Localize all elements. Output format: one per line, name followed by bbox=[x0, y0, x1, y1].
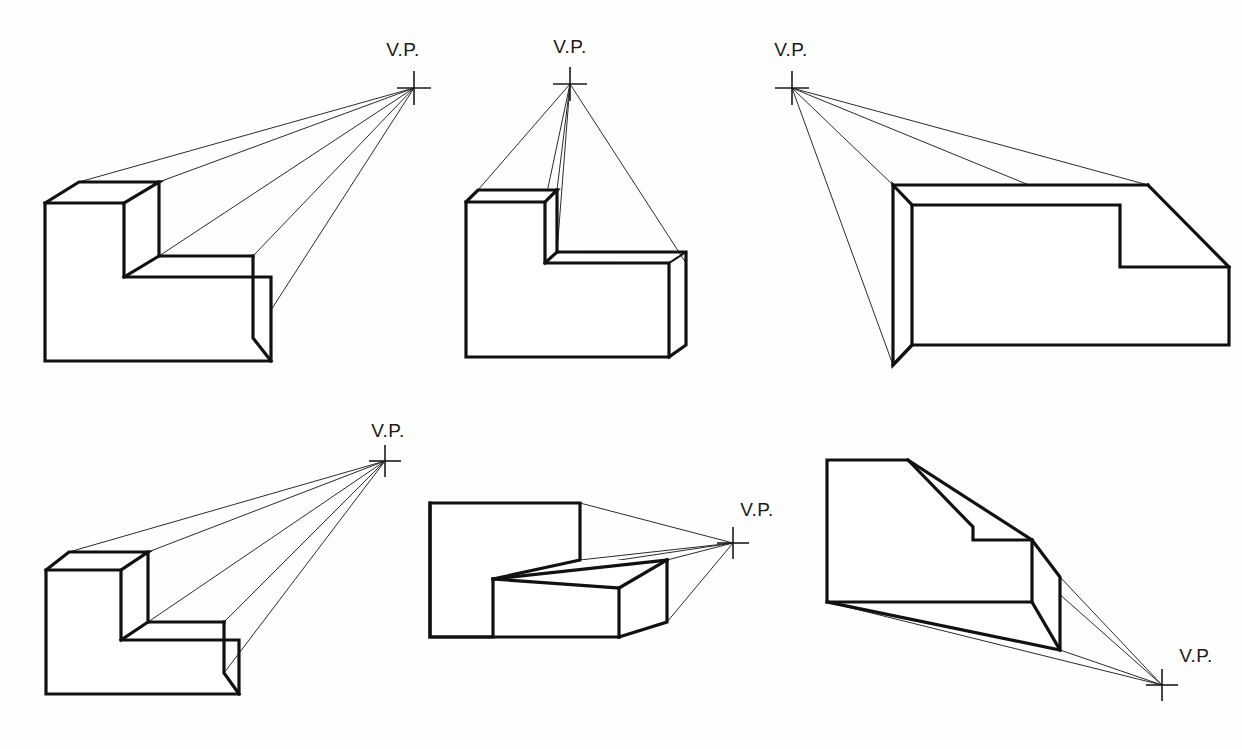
vp-label: V.P. bbox=[774, 39, 808, 60]
vp-label: V.P. bbox=[371, 420, 405, 441]
perspective-worksheet: V.P. V.P. bbox=[0, 0, 1242, 749]
drawing-canvas: V.P. V.P. bbox=[0, 0, 1242, 749]
vp-label: V.P. bbox=[740, 499, 774, 520]
vp-label: V.P. bbox=[386, 39, 420, 60]
vp-label: V.P. bbox=[1179, 645, 1213, 666]
vp-label: V.P. bbox=[553, 36, 587, 57]
